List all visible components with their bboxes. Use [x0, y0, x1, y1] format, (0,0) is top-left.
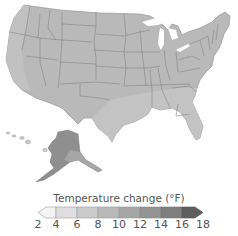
legend-tick: 18 — [196, 218, 210, 231]
legend-tick: 8 — [95, 218, 102, 231]
hawaii-island-3 — [20, 137, 25, 140]
hawaii-island-1 — [6, 132, 10, 134]
legend-tick: 10 — [112, 218, 126, 231]
legend-ticks: 2 4 6 8 10 12 14 16 18 — [0, 218, 238, 234]
legend-bin-12-14 — [140, 207, 161, 218]
legend-bin-14-16 — [161, 207, 182, 218]
legend-tick: 2 — [35, 218, 42, 231]
legend-bin-10-12 — [119, 207, 140, 218]
legend-bin-2-4 — [38, 207, 56, 218]
legend-bin-8-10 — [98, 207, 119, 218]
alaska-south-shading — [64, 150, 102, 172]
legend-tick: 6 — [74, 218, 81, 231]
legend-tick: 14 — [154, 218, 168, 231]
legend-tick: 12 — [133, 218, 147, 231]
legend-bin-4-6 — [56, 207, 77, 218]
legend: Temperature change (°F) 2 4 6 8 10 12 14… — [0, 190, 238, 236]
hawaii-island-4 — [25, 140, 30, 144]
hawaii — [6, 132, 47, 152]
legend-tick: 4 — [53, 218, 60, 231]
contiguous-us — [6, 5, 230, 142]
us-temperature-map — [0, 0, 238, 195]
legend-tick: 16 — [175, 218, 189, 231]
legend-title: Temperature change (°F) — [0, 192, 238, 204]
hawaii-island-5 — [43, 148, 47, 152]
alaska — [36, 130, 102, 182]
legend-bin-6-8 — [77, 207, 98, 218]
legend-bin-16-18 — [182, 207, 203, 218]
hawaii-island-2 — [12, 135, 16, 137]
